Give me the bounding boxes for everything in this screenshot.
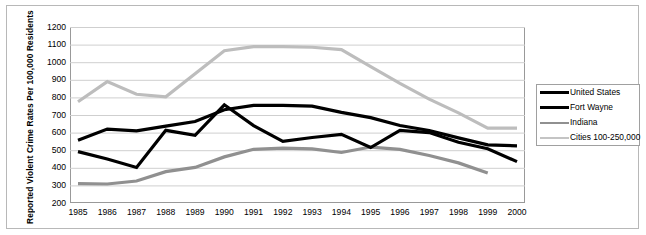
y-axis-tick-labels: 120011001000900800700600500400300200 bbox=[12, 27, 66, 203]
plot-wrapper bbox=[70, 27, 525, 203]
legend-item-label: Cities 100-250,000 bbox=[569, 133, 640, 141]
x-axis-tick-label: 1998 bbox=[443, 208, 473, 217]
x-axis-tick-labels: 1985198619871988198919901991199219931994… bbox=[70, 207, 525, 221]
x-axis-tick-label: 1988 bbox=[151, 208, 181, 217]
x-axis-tick-label: 1991 bbox=[239, 208, 269, 217]
data-series-layer bbox=[70, 27, 525, 203]
chart-legend: United StatesFort WayneIndianaCities 100… bbox=[536, 84, 640, 146]
y-axis-tick-label: 300 bbox=[14, 181, 66, 190]
x-axis-tick-label: 1995 bbox=[356, 208, 386, 217]
y-axis-tick-label: 400 bbox=[14, 163, 66, 172]
x-axis-tick-label: 1985 bbox=[63, 208, 93, 217]
legend-color-swatch bbox=[540, 106, 569, 109]
chart-frame: Reported Violent Crime Rates Per 100,000… bbox=[6, 5, 639, 229]
x-axis-tick-label: 1989 bbox=[180, 208, 210, 217]
x-axis-tick-label: 1990 bbox=[209, 208, 239, 217]
legend-item[interactable]: United States bbox=[537, 85, 639, 100]
legend-item[interactable]: Fort Wayne bbox=[537, 100, 639, 115]
legend-item[interactable]: Cities 100-250,000 bbox=[537, 130, 639, 145]
legend-color-swatch bbox=[540, 137, 569, 139]
x-axis-tick-label: 1999 bbox=[473, 208, 503, 217]
y-axis-tick-label: 1000 bbox=[14, 58, 66, 67]
legend-item[interactable]: Indiana bbox=[537, 115, 639, 130]
y-axis-tick-label: 700 bbox=[14, 111, 66, 120]
x-axis-tick-label: 1992 bbox=[268, 208, 298, 217]
y-axis-tick-label: 500 bbox=[14, 146, 66, 155]
legend-item-label: United States bbox=[569, 88, 620, 96]
legend-item-label: Fort Wayne bbox=[569, 103, 613, 111]
x-axis-tick-label: 2000 bbox=[502, 208, 532, 217]
y-axis-tick-label: 600 bbox=[14, 128, 66, 137]
x-axis-tick-label: 1986 bbox=[92, 208, 122, 217]
x-axis-tick-label: 1987 bbox=[122, 208, 152, 217]
legend-color-swatch bbox=[540, 122, 569, 124]
y-axis-tick-label: 800 bbox=[14, 93, 66, 102]
x-axis-tick-label: 1993 bbox=[297, 208, 327, 217]
legend-color-swatch bbox=[540, 91, 569, 94]
legend-item-label: Indiana bbox=[569, 118, 597, 126]
series-line bbox=[78, 47, 517, 128]
x-axis-tick-label: 1994 bbox=[326, 208, 356, 217]
x-axis-tick-label: 1996 bbox=[385, 208, 415, 217]
x-axis-tick-label: 1997 bbox=[414, 208, 444, 217]
y-axis-tick-label: 1100 bbox=[14, 40, 66, 49]
y-axis-tick-label: 1200 bbox=[14, 23, 66, 32]
y-axis-tick-label: 200 bbox=[14, 199, 66, 208]
y-axis-tick-label: 900 bbox=[14, 75, 66, 84]
